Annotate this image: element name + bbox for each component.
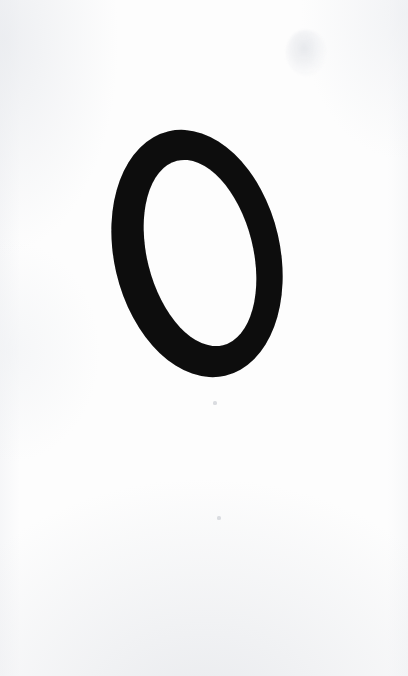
letter-layer: O [0, 0, 408, 676]
letter-o-glyph [0, 0, 408, 676]
scanned-page: O [0, 0, 408, 676]
